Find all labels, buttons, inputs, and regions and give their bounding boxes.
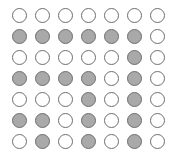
empty-circle-icon xyxy=(12,134,27,149)
circle-grid-cell[interactable] xyxy=(104,71,127,92)
empty-circle-icon xyxy=(35,8,50,23)
filled-circle-icon xyxy=(58,29,73,44)
circle-grid-cell[interactable] xyxy=(150,71,173,92)
circle-grid-cell[interactable] xyxy=(150,50,173,71)
circle-grid-cell[interactable] xyxy=(35,8,58,29)
empty-circle-icon xyxy=(35,92,50,107)
circle-grid-cell[interactable] xyxy=(150,113,173,134)
filled-circle-icon xyxy=(127,71,142,86)
circle-grid-cell[interactable] xyxy=(104,50,127,71)
circle-grid-cell[interactable] xyxy=(127,92,150,113)
circle-grid-cell[interactable] xyxy=(104,92,127,113)
empty-circle-icon xyxy=(12,8,27,23)
circle-grid-cell[interactable] xyxy=(58,92,81,113)
filled-circle-icon xyxy=(127,134,142,149)
circle-grid-row xyxy=(12,71,180,92)
circle-grid-row xyxy=(12,8,180,29)
circle-grid-cell[interactable] xyxy=(58,71,81,92)
circle-grid-cell[interactable] xyxy=(12,71,35,92)
circle-grid-cell[interactable] xyxy=(35,113,58,134)
circle-grid-cell[interactable] xyxy=(150,134,173,155)
filled-circle-icon xyxy=(127,29,142,44)
empty-circle-icon xyxy=(58,50,73,65)
circle-grid-cell[interactable] xyxy=(81,71,104,92)
empty-circle-icon xyxy=(58,92,73,107)
empty-circle-icon xyxy=(150,71,165,86)
circle-grid-cell[interactable] xyxy=(12,134,35,155)
circle-grid-cell[interactable] xyxy=(127,29,150,50)
empty-circle-icon xyxy=(35,50,50,65)
circle-grid-cell[interactable] xyxy=(12,8,35,29)
circle-grid-cell[interactable] xyxy=(127,71,150,92)
filled-circle-icon xyxy=(58,71,73,86)
circle-grid-cell[interactable] xyxy=(81,134,104,155)
circle-grid-cell[interactable] xyxy=(58,113,81,134)
filled-circle-icon xyxy=(81,113,96,128)
circle-grid-cell[interactable] xyxy=(104,8,127,29)
circle-grid-cell[interactable] xyxy=(150,29,173,50)
circle-grid-cell[interactable] xyxy=(104,134,127,155)
empty-circle-icon xyxy=(104,134,119,149)
circle-grid-cell[interactable] xyxy=(35,71,58,92)
circle-grid-cell[interactable] xyxy=(12,50,35,71)
empty-circle-icon xyxy=(81,8,96,23)
circle-grid-cell[interactable] xyxy=(150,92,173,113)
empty-circle-icon xyxy=(150,134,165,149)
circle-grid-cell[interactable] xyxy=(127,113,150,134)
filled-circle-icon xyxy=(12,29,27,44)
empty-circle-icon xyxy=(104,71,119,86)
empty-circle-icon xyxy=(104,113,119,128)
empty-circle-icon xyxy=(58,8,73,23)
circle-grid-cell[interactable] xyxy=(127,50,150,71)
filled-circle-icon xyxy=(104,29,119,44)
circle-grid-cell[interactable] xyxy=(35,134,58,155)
filled-circle-icon xyxy=(127,50,142,65)
filled-circle-icon xyxy=(35,71,50,86)
circle-grid-cell[interactable] xyxy=(35,29,58,50)
empty-circle-icon xyxy=(127,8,142,23)
circle-grid-cell[interactable] xyxy=(81,8,104,29)
circle-grid-cell[interactable] xyxy=(12,92,35,113)
empty-circle-icon xyxy=(58,134,73,149)
filled-circle-icon xyxy=(12,71,27,86)
circle-grid xyxy=(0,0,180,159)
filled-circle-icon xyxy=(81,92,96,107)
empty-circle-icon xyxy=(81,50,96,65)
circle-grid-cell[interactable] xyxy=(81,29,104,50)
circle-grid-row xyxy=(12,50,180,71)
circle-grid-cell[interactable] xyxy=(58,134,81,155)
filled-circle-icon xyxy=(35,134,50,149)
filled-circle-icon xyxy=(127,113,142,128)
circle-grid-cell[interactable] xyxy=(127,8,150,29)
circle-grid-cell[interactable] xyxy=(104,113,127,134)
filled-circle-icon xyxy=(81,71,96,86)
empty-circle-icon xyxy=(12,50,27,65)
filled-circle-icon xyxy=(81,134,96,149)
empty-circle-icon xyxy=(150,92,165,107)
circle-grid-row xyxy=(12,134,180,155)
empty-circle-icon xyxy=(12,92,27,107)
circle-grid-row xyxy=(12,29,180,50)
circle-grid-cell[interactable] xyxy=(81,50,104,71)
circle-grid-cell[interactable] xyxy=(58,29,81,50)
empty-circle-icon xyxy=(150,29,165,44)
circle-grid-cell[interactable] xyxy=(150,8,173,29)
filled-circle-icon xyxy=(35,29,50,44)
circle-grid-cell[interactable] xyxy=(58,50,81,71)
filled-circle-icon xyxy=(81,29,96,44)
circle-grid-cell[interactable] xyxy=(81,113,104,134)
circle-grid-cell[interactable] xyxy=(35,92,58,113)
circle-grid-cell[interactable] xyxy=(12,113,35,134)
filled-circle-icon xyxy=(35,113,50,128)
empty-circle-icon xyxy=(104,50,119,65)
empty-circle-icon xyxy=(150,50,165,65)
circle-grid-cell[interactable] xyxy=(12,29,35,50)
circle-grid-cell[interactable] xyxy=(35,50,58,71)
empty-circle-icon xyxy=(58,113,73,128)
circle-grid-cell[interactable] xyxy=(104,29,127,50)
circle-grid-cell[interactable] xyxy=(58,8,81,29)
circle-grid-cell[interactable] xyxy=(81,92,104,113)
circle-grid-row xyxy=(12,92,180,113)
circle-grid-cell[interactable] xyxy=(127,134,150,155)
empty-circle-icon xyxy=(104,8,119,23)
